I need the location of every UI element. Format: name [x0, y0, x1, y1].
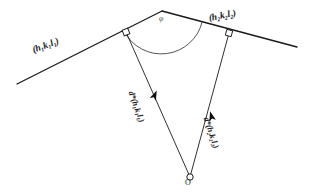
interplanar-angle-label: φ — [159, 15, 163, 23]
right-angle-marker-plane1 — [122, 28, 130, 36]
dstar2-vector-line — [190, 33, 229, 177]
dstar1-arrowhead-icon — [150, 89, 160, 101]
origin-label: O — [185, 179, 191, 187]
right-angle-marker-plane2 — [225, 29, 232, 36]
diagram-canvas — [0, 0, 309, 192]
interplanar-angle-arc — [124, 21, 202, 54]
reciprocal-lattice-diagram: (h₁k₁l₁) (h₂k₂l₂) d*(h₁k₁l₁) d*(h₂k₂l₂) … — [0, 0, 309, 192]
